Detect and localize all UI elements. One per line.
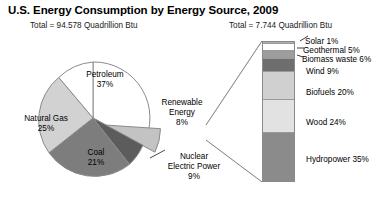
chart-figure: U.S. Energy Consumption by Energy Source… <box>0 0 389 199</box>
bar-segment-wood <box>263 100 294 133</box>
bar-label-wind: Wind 9% <box>306 67 339 76</box>
bar-label-wood: Wood 24% <box>306 118 346 127</box>
bar-segment-wind <box>263 59 294 72</box>
bar-label-biofuels: Biofuels 20% <box>306 88 354 97</box>
bar-segment-geothermal <box>263 44 294 51</box>
pie-label-nuclear-electric-power: NuclearElectric Power9% <box>158 152 230 182</box>
page-title: U.S. Energy Consumption by Energy Source… <box>8 4 278 16</box>
bar-segment-biofuels <box>263 72 294 100</box>
bar-segment-hydropower <box>263 133 294 181</box>
pie-label-petroleum: Petroleum37% <box>75 70 135 90</box>
bar-label-hydropower: Hydropower 35% <box>306 155 369 164</box>
bar-total-label: Total = 7.744 Quadrillion Btu <box>229 21 332 30</box>
pie-total-label: Total = 94.578 Quadrillion Btu <box>30 21 138 30</box>
bar-label-geothermal: Geothermal 5% <box>303 46 360 55</box>
bar-label-biomass-waste: Biomass waste 6% <box>302 55 371 64</box>
bar-label-solar: Solar 1% <box>305 37 338 46</box>
renewable-breakdown-bar <box>262 41 295 182</box>
bar-segment-biomass-waste <box>263 51 294 59</box>
pie-label-natural-gas: Natural Gas25% <box>13 114 79 134</box>
pie-label-coal: Coal21% <box>76 148 116 168</box>
pie-label-renewable-energy: RenewableEnergy8% <box>154 98 210 128</box>
